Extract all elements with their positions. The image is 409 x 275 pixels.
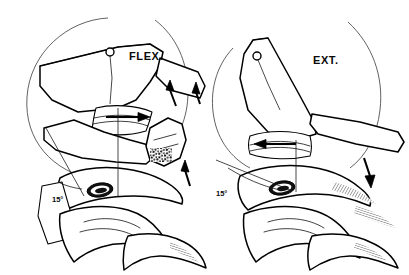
intervertebral-disc-extension xyxy=(249,132,312,159)
panel-label-flexion: FLEX. xyxy=(129,50,163,62)
angle-label-extension: 15° xyxy=(216,189,227,198)
figure-root: 15° FLEX. xyxy=(0,0,409,275)
spine-illustration-svg: 15° FLEX. xyxy=(0,0,409,275)
axis-circle-extension xyxy=(253,52,261,60)
axis-circle-flexion xyxy=(106,48,114,56)
angle-label-flexion: 15° xyxy=(52,195,63,204)
panel-label-extension: EXT. xyxy=(313,54,339,66)
